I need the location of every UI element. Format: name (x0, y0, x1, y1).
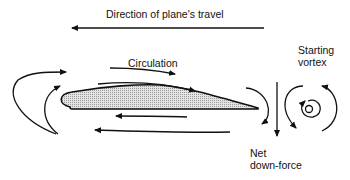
starting-vortex (285, 86, 337, 131)
title-label: Direction of plane's travel (106, 8, 224, 20)
airfoil (61, 85, 258, 109)
net-down-force-label-line1: Net (250, 147, 266, 159)
starting-vortex-label-line2: vortex (298, 56, 327, 68)
net-down-force-label-line2: down-force (250, 159, 302, 171)
circulation-label-visible: Circulation (128, 57, 178, 69)
airfoil-diagram (0, 0, 350, 180)
starting-vortex-label-line1: Starting (298, 44, 334, 56)
